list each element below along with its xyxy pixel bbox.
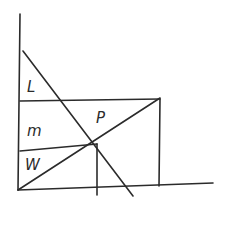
label-middle-region: m — [27, 122, 42, 140]
background — [0, 0, 230, 226]
label-top-region: L — [27, 78, 35, 96]
diagram-canvas: L m W P — [0, 0, 230, 226]
right-vertical-line — [159, 99, 160, 186]
label-bottom-region: W — [25, 156, 41, 174]
label-intersection-point: P — [96, 109, 106, 127]
